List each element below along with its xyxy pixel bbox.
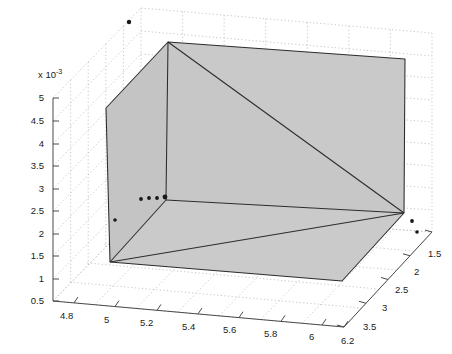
z-tick-label: 2.5 (395, 285, 408, 295)
x-tick-label: 5 (104, 315, 109, 325)
y-tick-label: 2.5 (20, 206, 44, 216)
z-tick-label: 1.5 (428, 249, 441, 259)
data-point (163, 195, 168, 200)
x-tick-label: 5.8 (264, 329, 277, 339)
z-tick-label: 3.5 (363, 322, 376, 332)
figure-canvas: x 10-3 5 4.5 4 3.5 3 2.5 2 1.5 1 0.5 4.8… (0, 0, 452, 354)
y-tick-label: 0.5 (20, 296, 44, 306)
y-tick-label: 3 (20, 184, 44, 194)
y-axis-ticks (53, 98, 59, 301)
x-tick-label: 6.2 (341, 336, 354, 346)
data-point (139, 197, 143, 201)
y-tick-label: 1.5 (20, 251, 44, 261)
y-tick-label: 4 (20, 139, 44, 149)
y-tick-label: 3.5 (20, 161, 44, 171)
data-point (147, 196, 151, 200)
convex-hull-surface (106, 42, 405, 281)
x-axis-ticks (74, 297, 348, 327)
x-tick-label: 5.6 (223, 325, 236, 335)
x-tick-label: 6 (309, 332, 314, 342)
y-tick-label: 1 (20, 274, 44, 284)
z-tick-label: 3 (382, 303, 387, 313)
data-point (127, 20, 131, 24)
data-point (410, 219, 414, 223)
x-tick-label: 5.4 (182, 322, 195, 332)
y-tick-label: 4.5 (20, 116, 44, 126)
y-tick-label: 5 (20, 93, 44, 103)
y-tick-label: 2 (20, 229, 44, 239)
data-point (415, 230, 419, 234)
plot-area (0, 0, 452, 354)
x-tick-label: 5.2 (140, 318, 153, 328)
x-tick-label: 4.8 (60, 311, 73, 321)
y-axis-exponent-label: x 10-3 (38, 70, 62, 80)
data-point (113, 218, 117, 222)
data-point (155, 196, 159, 200)
z-tick-label: 2 (414, 267, 419, 277)
